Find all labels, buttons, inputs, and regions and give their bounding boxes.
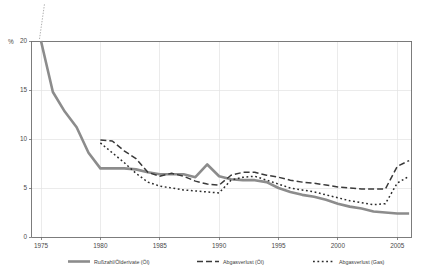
y-tick-label: 20 [20, 37, 28, 44]
data-series [41, 41, 409, 213]
x-tick-label: 2000 [331, 242, 346, 249]
x-tick-label: 1980 [93, 242, 108, 249]
series-line-2 [100, 143, 409, 205]
chart-legend: Rußzahl/Ölderivate (Öl)Abgasverlust (Öl)… [68, 259, 385, 265]
chart-canvas: 05101520 1975198019851990199520002005 Ru… [0, 0, 421, 274]
y-tick-label: 0 [23, 233, 27, 240]
y-tick-label: 15 [20, 86, 28, 93]
x-tick-label: 1990 [212, 242, 227, 249]
x-tick-label: 1995 [271, 242, 286, 249]
axis-break-indicator [40, 4, 45, 39]
series-line-1 [100, 140, 409, 189]
x-axis-tick-labels: 1975198019851990199520002005 [34, 237, 405, 249]
y-tick-label: 5 [23, 184, 27, 191]
legend-label-1: Abgasverlust (Öl) [223, 259, 264, 265]
emissions-line-chart: 05101520 1975198019851990199520002005 Ru… [0, 0, 421, 274]
y-axis-unit-label: % [8, 38, 14, 45]
y-tick-label: 10 [20, 135, 28, 142]
y-axis-tick-labels: 05101520 [20, 37, 32, 240]
legend-label-0: Rußzahl/Ölderivate (Öl) [94, 259, 150, 265]
x-tick-label: 1975 [34, 242, 49, 249]
x-tick-label: 2005 [390, 242, 405, 249]
legend-label-2: Abgasverlust (Gas) [339, 259, 385, 265]
x-tick-label: 1985 [153, 242, 168, 249]
